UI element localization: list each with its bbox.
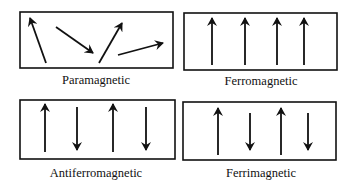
panel-label: Ferrimagnetic (226, 166, 297, 180)
panel-label: Paramagnetic (62, 73, 130, 87)
spin-arrow-up-left-icon (30, 18, 46, 63)
spin-arrow-right-icon (118, 43, 163, 55)
panel-paramagnetic: Paramagnetic (20, 12, 173, 87)
spin-arrow-down-right-icon (56, 27, 93, 53)
panel-ferrimagnetic: Ferrimagnetic (183, 102, 336, 180)
spin-arrows (30, 18, 163, 63)
panel-label: Ferromagnetic (225, 74, 298, 88)
panel-label: Antiferromagnetic (50, 166, 143, 180)
spin-arrows (218, 108, 308, 155)
panel-ferromagnetic: Ferromagnetic (184, 13, 337, 88)
panel-box (20, 100, 175, 159)
spin-arrows (212, 18, 304, 65)
spin-arrow-up-right-icon (99, 23, 122, 63)
magnetic-ordering-diagram: Paramagnetic Ferromagnetic Antiferromagn… (0, 0, 352, 189)
panel-antiferromagnetic: Antiferromagnetic (20, 100, 175, 180)
panel-box (183, 102, 336, 160)
spin-arrows (45, 104, 146, 152)
panel-box (184, 13, 337, 70)
panel-box (20, 12, 173, 68)
